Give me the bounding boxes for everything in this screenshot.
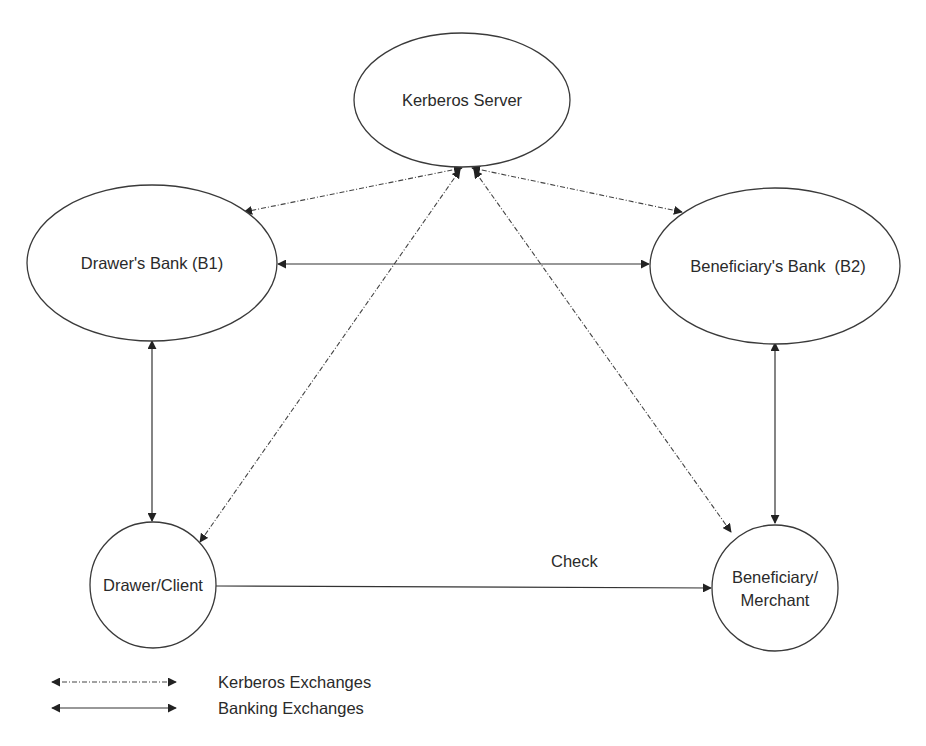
node-beneficiarys-bank: Beneficiary's Bank (B2): [650, 188, 900, 344]
legend-banking-label: Banking Exchanges: [218, 699, 364, 717]
drawers-bank-label: Drawer's Bank (B1): [81, 254, 224, 272]
kerberos-server-label: Kerberos Server: [402, 91, 523, 109]
beneficiary-merchant-label-line2: Merchant: [741, 591, 810, 609]
kerberos-edge-b1: [244, 168, 462, 212]
node-drawers-bank: Drawer's Bank (B1): [27, 185, 277, 341]
legend: Kerberos Exchanges Banking Exchanges: [52, 673, 371, 717]
beneficiarys-bank-label: Beneficiary's Bank (B2): [690, 257, 866, 275]
beneficiary-merchant-label-line1: Beneficiary/: [732, 568, 819, 586]
legend-kerberos-label: Kerberos Exchanges: [218, 673, 371, 691]
node-drawer-client: Drawer/Client: [90, 522, 216, 648]
check-edge: [216, 586, 711, 588]
node-beneficiary-merchant: Beneficiary/ Merchant: [712, 525, 838, 651]
check-label: Check: [551, 552, 599, 570]
kerberos-edge-b2: [472, 168, 682, 212]
kerberos-check-diagram: Check Kerberos Server Drawer's Bank (B1)…: [0, 0, 926, 746]
drawer-client-label: Drawer/Client: [103, 576, 203, 594]
node-kerberos-server: Kerberos Server: [354, 33, 570, 167]
